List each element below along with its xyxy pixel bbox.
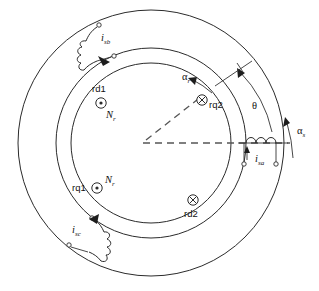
label-rq2: rq2 — [209, 100, 223, 110]
rotor-conductor-rq2 — [197, 95, 207, 105]
winding-isb — [77, 23, 116, 70]
rotor-conductor-rq1 — [92, 183, 102, 193]
isa-terminal-left — [242, 162, 246, 166]
isc-subscript: sc — [75, 230, 81, 238]
nr-top-subscript: r — [113, 115, 116, 123]
label-nr-top: Nr — [106, 110, 116, 123]
nr-bottom-symbol: N — [105, 174, 112, 185]
label-isc: isc — [72, 225, 81, 238]
label-rd1: rd1 — [92, 84, 106, 94]
isc-coil-path — [89, 220, 111, 262]
label-isb: isb — [101, 33, 110, 46]
label-alpha-s: αs — [297, 126, 305, 139]
nr-top-symbol: N — [106, 109, 113, 120]
figure-canvas — [0, 0, 319, 291]
isa-current-arrow-head — [244, 146, 250, 153]
rotor-conductor-rd1 — [96, 98, 106, 108]
rd1-dot-out-of-page-icon — [99, 101, 102, 104]
label-isa: isa — [255, 154, 264, 167]
isb-coil-path — [77, 27, 97, 70]
isb-subscript: sb — [104, 38, 110, 46]
isc-terminal-outer — [67, 243, 71, 247]
machine-cross-section-figure: isb rd1 Nr αr rq2 θ αs isa Nr rq1 rd2 is… — [0, 0, 319, 291]
isb-terminal-inner — [112, 54, 116, 58]
isa-terminal-right — [274, 162, 278, 166]
label-rq1: rq1 — [72, 183, 86, 193]
rotor-conductor-rd2 — [188, 195, 198, 205]
alpha-s-subscript: s — [303, 131, 306, 139]
alpha-s-arc-path — [287, 123, 293, 158]
isa-subscript: sa — [258, 159, 264, 167]
rotor-axis — [146, 96, 202, 140]
alpha-r-subscript: r — [188, 77, 191, 85]
nr-bottom-subscript: r — [112, 180, 115, 188]
isa-coil-loops — [246, 138, 276, 144]
alpha-s-arrow-head — [283, 117, 290, 127]
rotor-axis-extension — [215, 61, 252, 86]
label-alpha-r: αr — [182, 72, 190, 85]
rq1-dot-out-of-page-icon — [95, 186, 98, 189]
alpha-s-arrow — [283, 117, 293, 158]
label-rd2: rd2 — [184, 209, 198, 219]
isb-terminal-outer — [97, 23, 101, 27]
label-theta: θ — [252, 101, 257, 112]
label-nr-bottom: Nr — [105, 175, 115, 188]
